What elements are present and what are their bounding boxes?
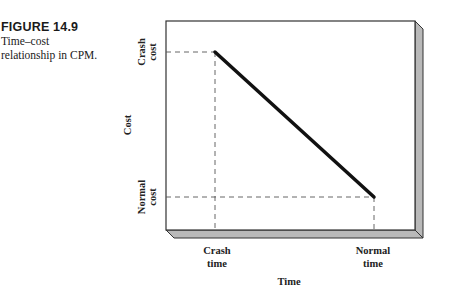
- crash-time-label-line1: Crash: [203, 245, 231, 256]
- crash-cost-label-line1: Crash: [136, 38, 147, 66]
- crash-cost-label-line2: cost: [147, 43, 158, 61]
- frame-bottom-side: [166, 230, 423, 238]
- frame-right-side: [415, 21, 423, 238]
- time-cost-chart: Crash cost Cost Normal cost Crash time N…: [0, 0, 456, 299]
- x-axis-labels: Crash time Normal time Time: [203, 245, 390, 287]
- y-axis-title: Cost: [122, 114, 133, 135]
- normal-cost-label-line2: cost: [147, 188, 158, 206]
- crash-time-label-line2: time: [207, 258, 227, 269]
- normal-time-label-line2: time: [363, 258, 383, 269]
- y-axis-labels: Crash cost Cost Normal cost: [122, 38, 158, 214]
- normal-time-label-line1: Normal: [356, 245, 390, 256]
- normal-cost-label-line1: Normal: [136, 180, 147, 214]
- x-axis-title: Time: [277, 276, 300, 287]
